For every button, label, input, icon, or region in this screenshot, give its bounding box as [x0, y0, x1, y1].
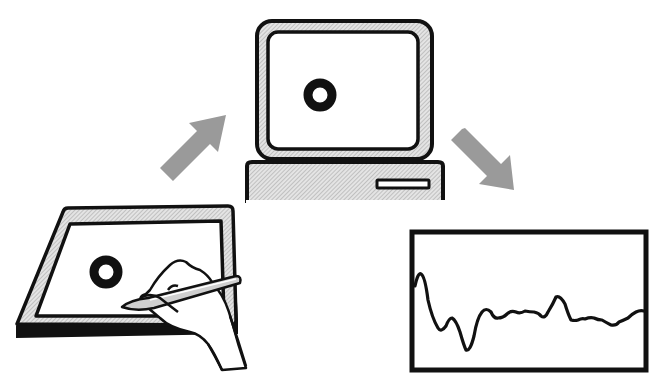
diagram-canvas — [0, 0, 653, 388]
arrow-down-right — [451, 128, 514, 190]
computer — [246, 21, 445, 206]
arrow-up-right — [160, 115, 226, 181]
signal-display-frame — [412, 232, 646, 370]
signal-display — [412, 232, 646, 370]
monitor-screen — [268, 32, 418, 149]
computer-base — [246, 162, 445, 206]
floppy-drive-slot — [377, 180, 429, 188]
computer-monitor — [257, 21, 432, 159]
